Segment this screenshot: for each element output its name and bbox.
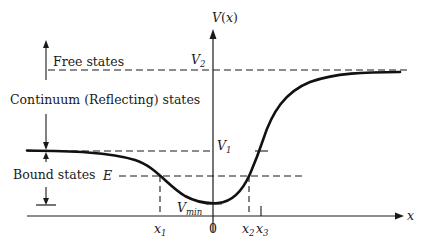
x1-label: x1	[154, 221, 166, 238]
x-axis	[27, 213, 404, 220]
continuum-arrow-down-icon	[43, 142, 49, 150]
bound-states-label: Bound states	[13, 167, 96, 182]
x2-label: x2	[242, 221, 254, 238]
v1-label: V1	[217, 138, 231, 155]
v2-label: V2	[191, 52, 205, 69]
energy-label: E	[102, 168, 112, 183]
y-axis	[210, 29, 217, 232]
potential-well-diagram: x V(x) V2 V1 E Vmin x1 0 x2 x3 Free stat…	[0, 0, 423, 245]
bound-arrow-down-icon	[43, 198, 49, 205]
free-arrow-up-icon	[43, 40, 49, 48]
y-axis-arrow-icon	[210, 29, 217, 39]
x3-label: x3	[256, 221, 268, 238]
bound-arrow-up-icon	[43, 152, 49, 159]
x-axis-label: x	[407, 208, 414, 223]
origin-label: 0	[209, 221, 217, 236]
free-states-label: Free states	[53, 54, 124, 69]
x-axis-arrow-icon	[395, 213, 404, 220]
y-axis-label: V(x)	[212, 10, 238, 25]
continuum-states-label: Continuum (Reflecting) states	[10, 92, 200, 107]
